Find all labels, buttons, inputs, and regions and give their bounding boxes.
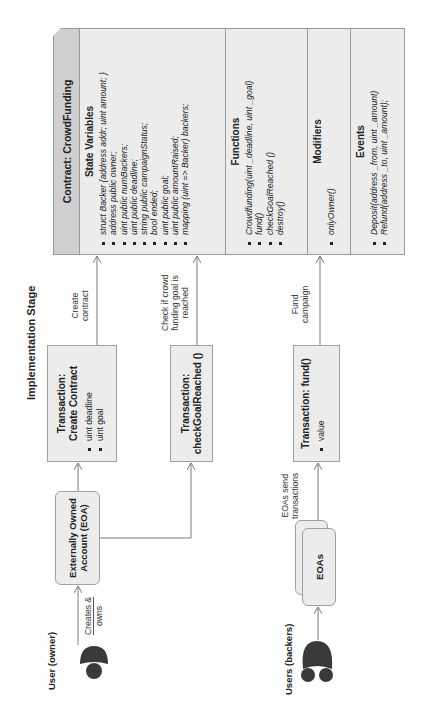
section-title: Modifiers [312,37,323,246]
state-variable: uint public goal; [160,37,170,246]
function-item: fund() [254,37,264,246]
diagram-canvas: Implementation Stage Contract: CrowdFund… [0,0,429,701]
section-modifiers: Modifiers onlyOwner() [308,29,351,254]
tx-title: Transaction: fund() [300,354,312,453]
people-group-icon [300,640,335,685]
state-variable: bool ended; [149,37,159,246]
label-fund-campaign: Fund campaign [290,286,310,323]
label-line: Create [70,290,80,321]
section-functions: Functions Crowdfunding(uint _deadline, u… [226,29,308,254]
label-line: Fund [290,286,300,323]
tx-param: value [316,354,327,453]
label-line: Check if crowd [160,275,170,331]
contract-box: Contract: CrowdFunding State Variables s… [53,28,405,255]
eoa-label: Externally Owned [67,498,78,578]
tx-title: Transaction: [56,354,68,453]
label-line: owns [94,597,104,635]
section-title: Functions [230,37,241,246]
label-line: reached [180,275,190,331]
event-item: Refund(address _to, uint _amount); [379,37,389,246]
arrow-eoa-to-check [100,463,191,538]
tx-param: uint deadline [84,354,95,453]
state-variable: uint public amountRaised; [170,37,180,246]
function-item: checkGoalReached () [265,37,275,246]
owner-label: User (owner) [46,632,57,690]
state-variable: uint public numBackers; [119,37,129,246]
section-state-variables: State Variables struct Backer {address a… [80,29,226,254]
function-item: Crowdfunding(uint _deadline, uint _goal) [244,37,254,246]
state-variable: address public owner; [108,37,118,246]
transaction-check-goal: Transaction: checkGoalReached () [170,345,213,462]
function-item: destroy() [275,37,285,246]
label-creates-owns: Creates & owns [83,597,104,635]
transaction-fund: Transaction: fund() value [293,345,340,462]
label-line: funding goal is [170,275,180,331]
state-variable: mapping (uint => Backer) backers; [180,37,190,246]
transaction-create-contract: Transaction: Create Contract uint deadli… [47,345,117,462]
state-variable: string public campaignStatus; [139,37,149,246]
label-line: contract [80,290,90,321]
tx-title: Create Contract [68,354,80,453]
label-check-goal: Check if crowd funding goal is reached [160,275,190,331]
state-variable: uint public deadline; [129,37,139,246]
tx-title: Transaction: [180,374,192,433]
event-item: Deposit(address _from, uint _amount) [369,37,379,246]
tx-title: checkGoalReached () [192,353,204,455]
backers-label: Users (backers) [283,624,294,695]
eoa-box: Externally Owned Account (EOA) [55,491,100,585]
section-title: Events [355,37,366,246]
tx-param: uint goal [95,354,106,453]
label-create-contract: Create contract [70,290,90,321]
eoas-box: EOAs [302,528,336,606]
eoa-label: Account (EOA) [78,504,89,572]
label-line: transactions [290,473,300,519]
contract-header: Contract: CrowdFunding [54,29,80,254]
person-icon [78,645,110,680]
section-events: Events Deposit(address _from, uint _amou… [351,29,406,254]
label-eoas-send: EOAs send transactions [280,473,300,519]
state-variable: struct Backer {address addr; uint amount… [98,37,108,246]
diagram-title: Implementation Stage [25,286,37,400]
section-title: State Variables [84,37,95,246]
label-line: EOAs send [280,473,290,519]
label-line: Creates & [83,597,94,635]
label-line: campaign [300,286,310,323]
eoas-label: EOAs [314,554,325,580]
modifier-item: onlyOwner() [326,37,336,246]
